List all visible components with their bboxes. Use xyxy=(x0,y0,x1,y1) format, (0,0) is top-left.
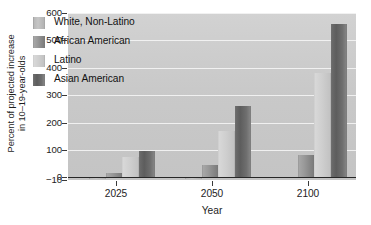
y-tick-label: 300 xyxy=(32,90,62,100)
legend-label: Asian American xyxy=(54,74,124,84)
x-axis-title: Year xyxy=(68,206,356,216)
y-tick-label: 200 xyxy=(32,118,62,128)
y-tick-label: 100 xyxy=(32,145,62,155)
x-tick-mark xyxy=(116,181,117,186)
y-tick-mark xyxy=(62,123,67,124)
x-tick-label: 2025 xyxy=(105,189,127,199)
zero-baseline xyxy=(68,177,356,179)
legend-swatch-icon xyxy=(33,36,45,48)
bar xyxy=(202,165,219,177)
y-tick-mark xyxy=(62,40,67,41)
y-tick-mark xyxy=(62,150,67,151)
y-axis-title-line1: Percent of projected increase xyxy=(6,34,16,152)
x-tick-mark xyxy=(212,181,213,186)
y-tick-mark xyxy=(62,180,67,181)
bar xyxy=(139,151,156,177)
legend-item: Latino xyxy=(33,51,135,70)
chart-figure: Percent of projected increase in 10–19-y… xyxy=(0,0,371,225)
x-tick-label: 2100 xyxy=(297,189,319,199)
legend-item: White, Non-Latino xyxy=(33,13,135,32)
bar xyxy=(122,157,139,178)
x-tick-mark xyxy=(308,181,309,186)
legend-item: Asian American xyxy=(33,70,135,89)
y-axis-title: Percent of projected increase in 10–19-y… xyxy=(0,0,34,186)
y-tick-mark xyxy=(62,13,67,14)
bar xyxy=(298,155,315,177)
legend-label: Latino xyxy=(54,55,81,65)
bar xyxy=(235,106,252,177)
gridline xyxy=(68,150,356,151)
legend-swatch-icon xyxy=(33,55,45,67)
y-tick-mark xyxy=(62,177,67,178)
legend-label: White, Non-Latino xyxy=(54,17,135,27)
legend-swatch-icon xyxy=(33,17,45,29)
y-tick-label: −10 xyxy=(32,175,62,185)
y-tick-mark xyxy=(62,68,67,69)
bar xyxy=(331,24,348,177)
legend-swatch-icon xyxy=(33,74,45,86)
y-axis-title-line2: in 10–19-year-olds xyxy=(17,34,28,152)
y-tick-mark xyxy=(62,95,67,96)
bar xyxy=(218,131,235,178)
x-tick-label: 2050 xyxy=(201,189,223,199)
bar xyxy=(314,73,331,177)
gridline xyxy=(68,123,356,124)
legend-label: African American xyxy=(54,36,130,46)
chart-legend: White, Non-LatinoAfrican AmericanLatinoA… xyxy=(33,13,135,89)
gridline xyxy=(68,95,356,96)
legend-item: African American xyxy=(33,32,135,51)
